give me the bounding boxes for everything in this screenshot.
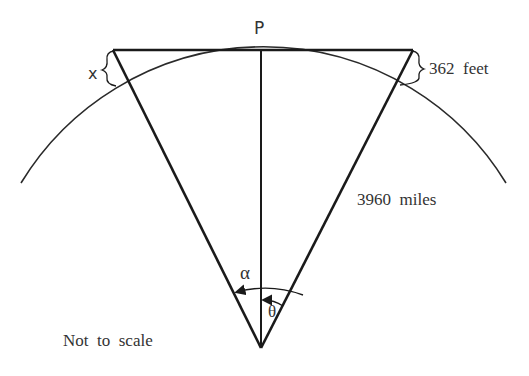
left-radius-line bbox=[113, 50, 261, 348]
height-label: 362 feet bbox=[429, 59, 488, 79]
diagram-canvas: P x 362 feet 3960 miles α θ Not to scale bbox=[0, 0, 529, 376]
radius-label: 3960 miles bbox=[357, 190, 436, 210]
geometry bbox=[0, 0, 529, 376]
not-to-scale-note: Not to scale bbox=[63, 331, 153, 351]
alpha-arc bbox=[237, 288, 303, 295]
brace-x bbox=[102, 51, 116, 86]
theta-label: θ bbox=[268, 302, 276, 322]
point-p-label: P bbox=[254, 18, 264, 38]
alpha-label: α bbox=[240, 262, 250, 284]
x-label: x bbox=[88, 64, 97, 83]
